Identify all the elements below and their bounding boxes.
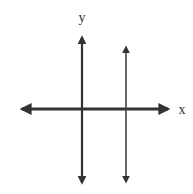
coordinate-plane-diagram: y x <box>0 0 193 194</box>
x-axis-label: x <box>179 102 186 117</box>
y-axis-label: y <box>79 10 86 25</box>
